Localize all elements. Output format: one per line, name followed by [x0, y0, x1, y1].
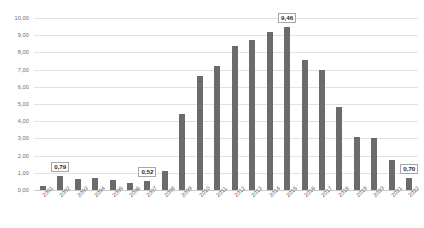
y-axis-tick-label: 6,00	[18, 84, 29, 90]
bar-value-label: 0,52	[138, 167, 156, 177]
bar-slot: 0,79	[51, 18, 68, 190]
bar-chart: 0,001,002,003,004,005,006,007,008,009,00…	[0, 0, 424, 228]
bar[interactable]	[232, 46, 238, 190]
x-axis-tick-slot: 2022	[401, 192, 418, 228]
bar-slot	[191, 18, 208, 190]
bar[interactable]	[249, 40, 255, 190]
bar-slot	[209, 18, 226, 190]
x-axis-tick-slot: 2009	[174, 192, 191, 228]
bar-slot	[226, 18, 243, 190]
bar-slot	[296, 18, 313, 190]
x-axis-tick-slot: 2021	[383, 192, 400, 228]
x-axis-tick-slot: 2003	[69, 192, 86, 228]
x-axis-tick-slot: 2001	[34, 192, 51, 228]
bar-value-label: 0,70	[400, 164, 418, 174]
y-axis: 0,001,002,003,004,005,006,007,008,009,00…	[0, 18, 32, 190]
bar-value-label: 0,79	[51, 162, 69, 172]
x-axis-tick-slot: 2018	[331, 192, 348, 228]
x-axis: 2001200220032004200520062007200820092010…	[34, 192, 418, 228]
x-axis-tick-slot: 2017	[313, 192, 330, 228]
x-axis-tick-slot: 2005	[104, 192, 121, 228]
bar[interactable]	[354, 137, 360, 190]
x-axis-tick-slot: 2016	[296, 192, 313, 228]
x-axis-tick-slot: 2011	[209, 192, 226, 228]
bar[interactable]	[197, 76, 203, 190]
x-axis-tick-slot: 2019	[348, 192, 365, 228]
y-axis-tick-label: 8,00	[18, 49, 29, 55]
bar-slot	[261, 18, 278, 190]
x-axis-tick-slot: 2008	[156, 192, 173, 228]
y-axis-tick-label: 4,00	[18, 118, 29, 124]
y-axis-tick-label: 3,00	[18, 135, 29, 141]
bar-slot	[313, 18, 330, 190]
bar-value-label: 9,46	[278, 13, 296, 23]
x-axis-tick-slot: 2020	[366, 192, 383, 228]
bar-slot	[383, 18, 400, 190]
y-axis-tick-label: 7,00	[18, 67, 29, 73]
bar-slot	[86, 18, 103, 190]
bar[interactable]	[302, 60, 308, 190]
x-axis-tick-slot: 2015	[278, 192, 295, 228]
y-axis-tick-label: 9,00	[18, 32, 29, 38]
bar[interactable]	[162, 171, 168, 190]
x-axis-tick-slot: 2010	[191, 192, 208, 228]
bar-slot	[331, 18, 348, 190]
bar-slot	[174, 18, 191, 190]
bar[interactable]	[179, 114, 185, 190]
bar[interactable]	[319, 70, 325, 190]
y-axis-tick-label: 10,00	[15, 15, 30, 21]
y-axis-tick-label: 5,00	[18, 101, 29, 107]
bar-slot: 9,46	[278, 18, 295, 190]
bar[interactable]	[267, 32, 273, 190]
x-axis-tick-slot: 2012	[226, 192, 243, 228]
bar-slot	[348, 18, 365, 190]
bar-slot	[156, 18, 173, 190]
y-axis-tick-label: 2,00	[18, 153, 29, 159]
bar-slot: 0,52	[139, 18, 156, 190]
bar-slot	[121, 18, 138, 190]
bar-slot	[104, 18, 121, 190]
x-axis-tick-slot: 2002	[51, 192, 68, 228]
y-axis-tick-label: 0,00	[18, 187, 29, 193]
bar[interactable]	[389, 160, 395, 190]
bar[interactable]	[284, 27, 290, 190]
bar-slot	[366, 18, 383, 190]
bar-slot	[69, 18, 86, 190]
bar[interactable]	[371, 138, 377, 190]
x-axis-tick-slot: 2014	[261, 192, 278, 228]
bar-slot	[34, 18, 51, 190]
bar-slot: 0,70	[401, 18, 418, 190]
bar-slot	[243, 18, 260, 190]
bar[interactable]	[336, 107, 342, 190]
bar[interactable]	[214, 66, 220, 190]
x-axis-tick-slot: 2007	[139, 192, 156, 228]
x-axis-tick-slot: 2004	[86, 192, 103, 228]
x-axis-tick-slot: 2013	[243, 192, 260, 228]
y-axis-tick-label: 1,00	[18, 170, 29, 176]
bars-layer: 0,790,529,460,70	[34, 18, 418, 190]
x-axis-tick-slot: 2006	[121, 192, 138, 228]
